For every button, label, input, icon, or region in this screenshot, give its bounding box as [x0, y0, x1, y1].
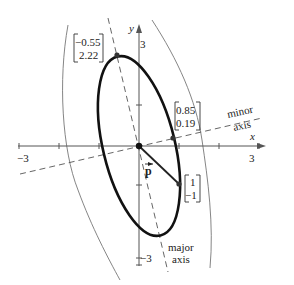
ellipse-diagram: x y −3 3 3 −3 p −0.55 2.22 0.85 0.19 1 −…: [0, 0, 294, 285]
major-axis-point: [114, 52, 119, 57]
vector-endpoint-label: 1 −1: [185, 175, 200, 202]
major-axis-label-line1: major: [168, 241, 194, 253]
minor-axis-label-line2: axis: [232, 118, 252, 133]
x-axis-arrow-icon: [257, 143, 266, 149]
x-axis-label: x: [249, 130, 255, 142]
y-axis-label: y: [128, 22, 134, 34]
y-tick-min-label: −3: [140, 252, 152, 264]
minor-axis-point: [170, 135, 175, 140]
vector-p-label: p: [145, 164, 152, 178]
major-axis-label-line2: axis: [172, 253, 190, 265]
vector-y: −1: [185, 189, 197, 201]
major-point-x: −0.55: [75, 36, 101, 48]
minor-point-x: 0.85: [176, 104, 196, 116]
major-point-y: 2.22: [79, 49, 98, 61]
minor-point-y: 0.19: [176, 117, 196, 129]
minor-axis-label-line1: minor: [226, 103, 255, 120]
x-tick-max-label: 3: [249, 152, 255, 164]
origin-point: [136, 143, 142, 149]
vector-endpoint: [176, 181, 181, 186]
y-tick-max-label: 3: [140, 38, 146, 50]
level-curve-right: [152, 20, 211, 268]
major-point-label: −0.55 2.22: [74, 34, 103, 62]
y-axis-arrow-icon: [136, 24, 142, 33]
minor-point-label: 0.85 0.19: [175, 102, 200, 130]
x-tick-min-label: −3: [17, 152, 29, 164]
vector-x: 1: [190, 176, 196, 188]
